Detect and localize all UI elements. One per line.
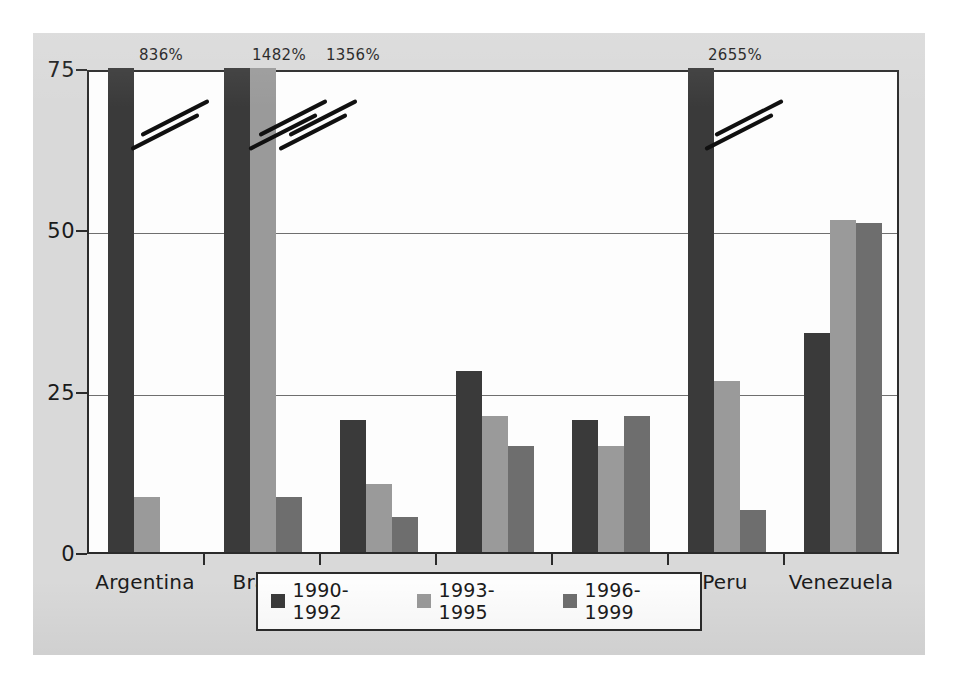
legend-item: 1993-1995 [417, 579, 541, 623]
legend-swatch-icon [417, 594, 431, 608]
plot-area [87, 70, 899, 554]
x-axis-tick-mark [551, 554, 553, 565]
bar [714, 381, 740, 552]
bar-value-label: 1356% [326, 46, 380, 64]
bar [108, 68, 134, 552]
bar-value-label: 1482% [252, 46, 306, 64]
legend-label: 1996-1999 [585, 579, 687, 623]
chart-panel: 0255075 836%1482%1356%2655% ArgentinaBra… [33, 33, 925, 655]
bar-group [89, 72, 205, 552]
bar [688, 68, 714, 552]
y-axis-tick-label: 50 [31, 219, 75, 243]
legend-label: 1990-1992 [293, 579, 395, 623]
y-axis-tick-mark [76, 392, 87, 394]
bar [856, 223, 882, 552]
bar [224, 68, 250, 552]
y-axis-tick-mark [76, 230, 87, 232]
bar [740, 510, 766, 552]
bar [392, 517, 418, 552]
legend-swatch-icon [271, 594, 285, 608]
bar-group [321, 72, 437, 552]
bar-group [669, 72, 785, 552]
x-axis-tick-mark [319, 554, 321, 565]
y-axis-tick-label: 25 [31, 381, 75, 405]
x-axis-tick-mark [203, 554, 205, 565]
bar-group [785, 72, 901, 552]
bar [456, 371, 482, 552]
chart-legend: 1990-19921993-19951996-1999 [256, 572, 702, 631]
x-axis-tick-mark [435, 554, 437, 565]
x-axis-tick-mark [783, 554, 785, 565]
bar [482, 416, 508, 552]
x-axis-category-label: Venezuela [789, 570, 894, 594]
y-axis-tick-label: 75 [31, 58, 75, 82]
x-axis-category-label: Argentina [95, 570, 194, 594]
bar-value-label: 836% [139, 46, 183, 64]
bar [598, 446, 624, 552]
bar-group [553, 72, 669, 552]
y-axis-tick-mark [76, 553, 87, 555]
bar [624, 416, 650, 552]
bar [572, 420, 598, 552]
bar [366, 484, 392, 552]
legend-swatch-icon [563, 594, 577, 608]
legend-item: 1996-1999 [563, 579, 687, 623]
bar-group [437, 72, 553, 552]
y-axis-tick-mark [76, 69, 87, 71]
bar [508, 446, 534, 552]
bar [250, 68, 276, 552]
bar [276, 497, 302, 552]
x-axis-category-label: Peru [702, 570, 747, 594]
legend-item: 1990-1992 [271, 579, 395, 623]
bar [830, 220, 856, 552]
legend-label: 1993-1995 [439, 579, 541, 623]
y-axis-tick-label: 0 [31, 542, 75, 566]
bar [804, 333, 830, 552]
bar-group [205, 72, 321, 552]
x-axis-tick-mark [667, 554, 669, 565]
bar-value-label: 2655% [708, 46, 762, 64]
bar [340, 420, 366, 552]
bar [134, 497, 160, 552]
